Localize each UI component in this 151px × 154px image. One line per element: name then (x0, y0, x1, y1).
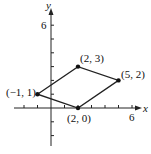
point-label-5-2: (5, 2) (121, 68, 145, 81)
x-tick-label-6: 6 (129, 111, 135, 123)
vertex-point (76, 106, 80, 110)
x-axis-label: x (142, 102, 148, 114)
vertex-point (76, 64, 80, 68)
parallelogram-outline (38, 67, 119, 108)
y-tick-label-6: 6 (41, 19, 47, 31)
plot-svg: x y 6 6 (−1, 1) (2, 3) (5, 2) (2, 0) (0, 0, 151, 154)
point-label-2-0: (2, 0) (67, 112, 91, 125)
x-axis-arrow-icon (135, 106, 142, 111)
y-axis-label: y (45, 0, 51, 11)
point-label-2-3: (2, 3) (80, 52, 104, 65)
coordinate-plot: x y 6 6 (−1, 1) (2, 3) (5, 2) (2, 0) (0, 0, 151, 154)
point-label-neg1-1: (−1, 1) (6, 86, 36, 99)
